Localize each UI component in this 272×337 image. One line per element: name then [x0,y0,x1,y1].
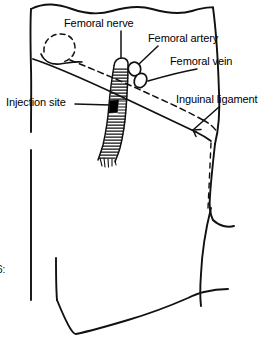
figure-corner-mark: 6: [0,264,5,275]
injection-site-leader-line [75,104,110,105]
label-femoral-vein: Femoral vein [170,55,232,67]
femoral-vein-leader-line [148,69,197,81]
label-femoral-artery: Femoral artery [148,32,218,44]
injection-site-marker [109,100,119,113]
inguinal-ligament-solid-end [196,132,211,141]
femoral-head-dashed-outline [44,34,75,62]
bottom-right-edge [204,289,228,292]
femoral-nerve-top-cap [114,58,128,66]
label-inguinal-ligament: Inguinal ligament [176,93,257,105]
figure-illustration [0,0,272,337]
nerve-hatching-lower [99,116,125,158]
bottom-left-edge [56,258,57,300]
label-femoral-nerve: Femoral nerve [64,17,134,29]
inguinal-ligament-dashed-tail [203,120,217,132]
femoral-artery-leader-line [139,46,158,64]
nerve-bundle-frayed-tips [100,158,116,167]
top-torn-edge [31,4,213,13]
anatomy-figure: Femoral nerve Femoral artery Femoral vei… [0,0,272,337]
bottom-torn-edge [57,292,204,334]
inguinal-ligament-leader-line [193,107,219,130]
right-body-contour-upper [213,8,219,145]
right-body-contour-notch [213,220,234,227]
left-body-edge [30,9,31,132]
label-injection-site: Injection site [6,96,66,108]
